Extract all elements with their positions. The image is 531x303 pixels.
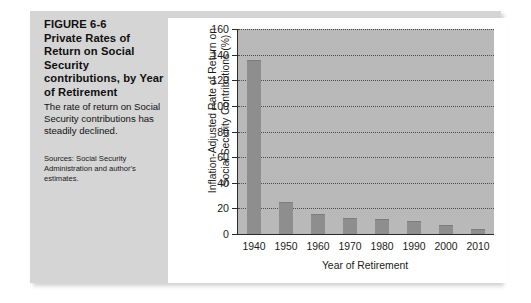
y-axis-tick-label: 120 — [211, 74, 229, 86]
x-axis-tick-label: 2000 — [434, 241, 457, 252]
y-axis-tick — [232, 132, 238, 133]
figure-description: The rate of return on Social Security co… — [44, 101, 164, 138]
y-axis-tick-label: 160 — [211, 23, 229, 35]
bar — [375, 219, 390, 234]
y-axis-tick-label: 100 — [211, 100, 229, 112]
bar — [247, 60, 262, 234]
gridline — [238, 29, 494, 30]
y-axis-tick — [232, 29, 238, 30]
gridline — [238, 132, 494, 133]
figure-title: Private Rates of Return on Social Securi… — [44, 32, 164, 100]
y-axis-tick-label: 80 — [217, 126, 229, 138]
y-axis-tick-label: 0 — [223, 228, 229, 240]
chart-card: Inflation-Adjusted Rate of Return on Soc… — [168, 18, 507, 283]
bar — [343, 218, 358, 234]
bar — [439, 225, 454, 234]
plot-area: 0204060801001201401601940195019601970198… — [237, 29, 494, 235]
y-axis-tick-label: 20 — [217, 202, 229, 214]
figure-root: FIGURE 6-6 Private Rates of Return on So… — [0, 0, 531, 303]
figure-number-label: FIGURE 6-6 — [44, 18, 164, 32]
y-axis-tick — [232, 106, 238, 107]
figure-caption-block: FIGURE 6-6 Private Rates of Return on So… — [44, 18, 164, 268]
x-axis-title: Year of Retirement — [237, 260, 493, 271]
gridline — [238, 80, 494, 81]
y-axis-tick — [232, 183, 238, 184]
gridline — [238, 55, 494, 56]
y-axis-tick — [232, 234, 238, 235]
x-axis-tick-label: 1960 — [306, 241, 329, 252]
x-axis-tick-label: 1940 — [242, 241, 265, 252]
x-axis-tick-label: 1990 — [402, 241, 425, 252]
gridline — [238, 183, 494, 184]
bar — [311, 214, 326, 234]
x-axis-tick-label: 2010 — [466, 241, 489, 252]
bar — [471, 229, 486, 234]
y-axis-tick — [232, 208, 238, 209]
gridline — [238, 208, 494, 209]
gridline — [238, 157, 494, 158]
y-axis-tick-label: 40 — [217, 177, 229, 189]
y-axis-tick — [232, 157, 238, 158]
y-axis-tick — [232, 80, 238, 81]
bar — [279, 202, 294, 234]
bar — [407, 221, 422, 234]
figure-source-note: Sources: Social Security Administration … — [44, 154, 166, 184]
x-axis-tick-label: 1980 — [370, 241, 393, 252]
y-axis-tick-label: 60 — [217, 151, 229, 163]
y-axis-tick — [232, 55, 238, 56]
x-axis-tick-label: 1970 — [338, 241, 361, 252]
x-axis-tick-label: 1950 — [274, 241, 297, 252]
y-axis-tick-label: 140 — [211, 49, 229, 61]
gridline — [238, 106, 494, 107]
